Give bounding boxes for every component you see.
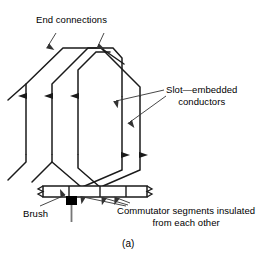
figure-caption: (a) [122,238,134,250]
top-end-connection-inner [78,52,110,96]
end-connections-bottom-group [52,155,140,188]
label-commutator-segments: Commutator segments insulated from each … [117,205,255,229]
bottom-end-connection-1 [78,155,101,188]
top-end-connection-outer [26,48,140,96]
armature-winding-figure: End connections Slot—embedded conductors… [0,0,272,259]
label-brush: Brush [23,208,48,220]
label-commutator-segments-line1: Commutator segments insulated [117,205,255,217]
leader-lines-group [40,33,166,206]
label-end-connections: End connections [36,14,107,26]
slot-conductors-group [26,96,140,155]
end-connections-left-group [8,84,52,182]
commutator-group [38,186,152,197]
label-slot-embedded-conductors-line2: conductors [166,96,237,108]
brush-group [66,196,77,222]
left-lead-upper [8,84,26,100]
left-lead-lower-2 [32,155,52,182]
bottom-end-connection-2 [80,155,122,188]
brush-block [66,196,77,205]
bottom-end-connection-4 [52,162,80,186]
leader-slot-conductors-lower [130,96,166,122]
left-lead-lower-1 [8,155,26,180]
leader-end-connections-right [98,33,104,46]
leader-end-connections-left [48,33,56,46]
end-connections-top-group [26,48,140,96]
label-slot-embedded-conductors-line1: Slot—embedded [166,84,237,96]
label-slot-embedded-conductors: Slot—embedded conductors [166,84,237,107]
commutator-bar [43,186,147,197]
label-commutator-segments-line2: from each other [117,217,255,229]
